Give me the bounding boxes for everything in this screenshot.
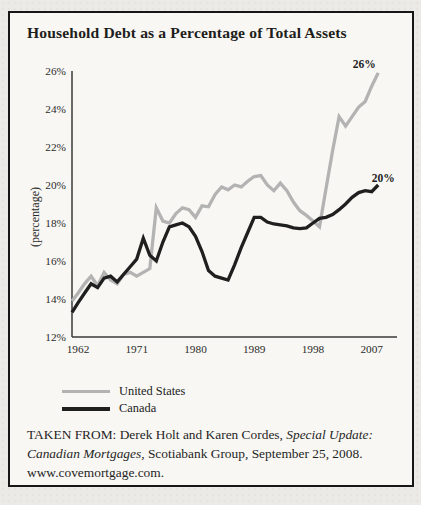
- series-line-united-states: [72, 73, 378, 301]
- scanned-book-page: Household Debt as a Percentage of Total …: [0, 0, 421, 505]
- source-note: TAKEN FROM: Derek Holt and Karen Cordes,…: [27, 425, 403, 482]
- legend-label: Canada: [119, 401, 156, 416]
- figure-frame: Household Debt as a Percentage of Total …: [8, 11, 414, 487]
- series-line-canada: [72, 185, 378, 312]
- legend-swatch-canada: [62, 407, 110, 411]
- source-note-line: TAKEN FROM: Derek Holt and Karen Cordes,…: [27, 425, 403, 444]
- x-tick-label: 1962: [67, 343, 90, 355]
- y-tick-label: 16%: [45, 255, 66, 267]
- source-text-italic: Special Update:: [286, 427, 373, 442]
- source-note-line: www.covemortgage.com.: [27, 463, 403, 482]
- y-tick-label: 22%: [45, 141, 66, 153]
- end-value-label: 20%: [372, 172, 395, 184]
- source-note-line: Canadian Mortgages, Scotiabank Group, Se…: [27, 444, 403, 463]
- legend-item: Canada: [62, 400, 185, 417]
- legend-label: United States: [119, 384, 185, 399]
- chart-legend: United StatesCanada: [62, 383, 185, 417]
- y-tick-label: 24%: [45, 103, 66, 115]
- y-tick-label: 12%: [45, 331, 66, 343]
- y-axis-title: (percentage): [28, 187, 42, 247]
- y-tick-label: 26%: [45, 65, 66, 77]
- end-value-label: 26%: [353, 58, 376, 70]
- source-text-italic: Canadian Mortgages,: [27, 446, 145, 461]
- x-tick-label: 1971: [125, 343, 148, 355]
- x-tick-label: 2007: [360, 343, 383, 355]
- y-tick-label: 18%: [45, 217, 66, 229]
- x-tick-label: 1989: [243, 343, 266, 355]
- y-tick-label: 14%: [45, 293, 66, 305]
- source-text: www.covemortgage.com.: [27, 465, 164, 480]
- y-tick-label: 20%: [45, 179, 66, 191]
- source-text: TAKEN FROM: Derek Holt and Karen Cordes,: [27, 427, 286, 442]
- x-tick-label: 1998: [302, 343, 325, 355]
- x-tick-label: 1980: [184, 343, 207, 355]
- legend-swatch-united-states: [62, 390, 110, 393]
- source-text: Scotiabank Group, September 25, 2008.: [145, 446, 363, 461]
- legend-item: United States: [62, 383, 185, 400]
